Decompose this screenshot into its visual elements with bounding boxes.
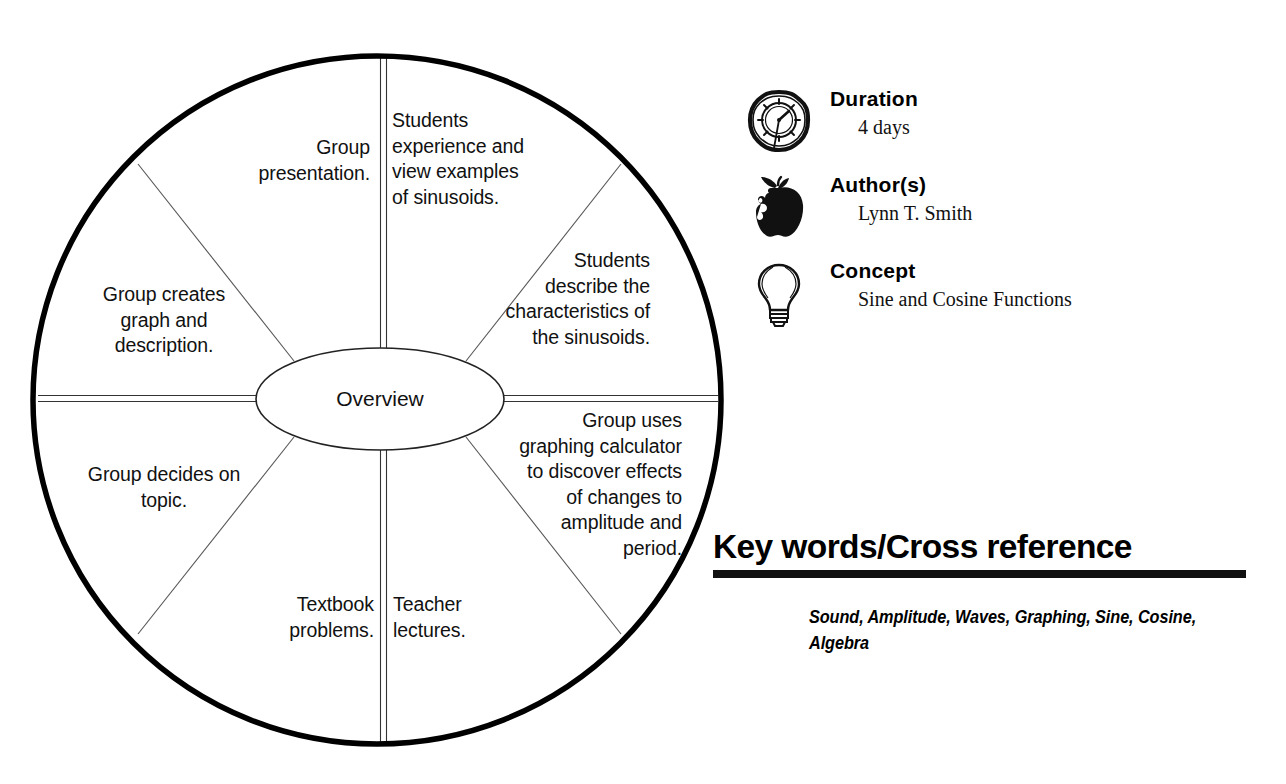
meta-heading-concept: Concept [830,258,1264,284]
meta-heading-duration: Duration [830,86,1264,112]
lesson-meta-panel: Duration 4 days Author(s) Lynn T. Smith [744,86,1264,344]
meta-value-duration: 4 days [830,112,1264,140]
overview-wheel-diagram: Overview Students experience and view ex… [0,0,760,784]
meta-row-concept: Concept Sine and Cosine Functions [744,258,1264,344]
keywords-heading: Key words/Cross reference [713,527,1253,567]
sector-label-group-presentation: Group presentation. [214,135,370,186]
sector-label-group-uses-calculator: Group uses graphing calculator to discov… [484,408,682,561]
sector-label-group-creates-graph: Group creates graph and description. [74,282,254,359]
meta-row-duration: Duration 4 days [744,86,1264,172]
center-label: Overview [256,386,504,412]
lightbulb-icon [744,258,814,330]
meta-value-authors: Lynn T. Smith [830,198,1264,226]
sector-label-students-describe: Students describe the characteristics of… [480,248,650,350]
keywords-underline-rule [713,570,1246,578]
keywords-list: Sound, Amplitude, Waves, Graphing, Sine,… [809,604,1200,656]
sector-label-students-experience: Students experience and view examples of… [392,108,542,210]
sector-label-textbook-problems: Textbook problems. [228,592,374,643]
keywords-block: Key words/Cross reference Sound, Amplitu… [713,527,1253,656]
sector-label-group-decides: Group decides on topic. [74,462,254,513]
meta-heading-authors: Author(s) [830,172,1264,198]
meta-row-authors: Author(s) Lynn T. Smith [744,172,1264,258]
apple-icon [744,172,814,244]
meta-value-concept: Sine and Cosine Functions [830,284,1264,312]
sector-label-teacher-lectures: Teacher lectures. [393,592,523,643]
stopwatch-icon [744,86,814,158]
